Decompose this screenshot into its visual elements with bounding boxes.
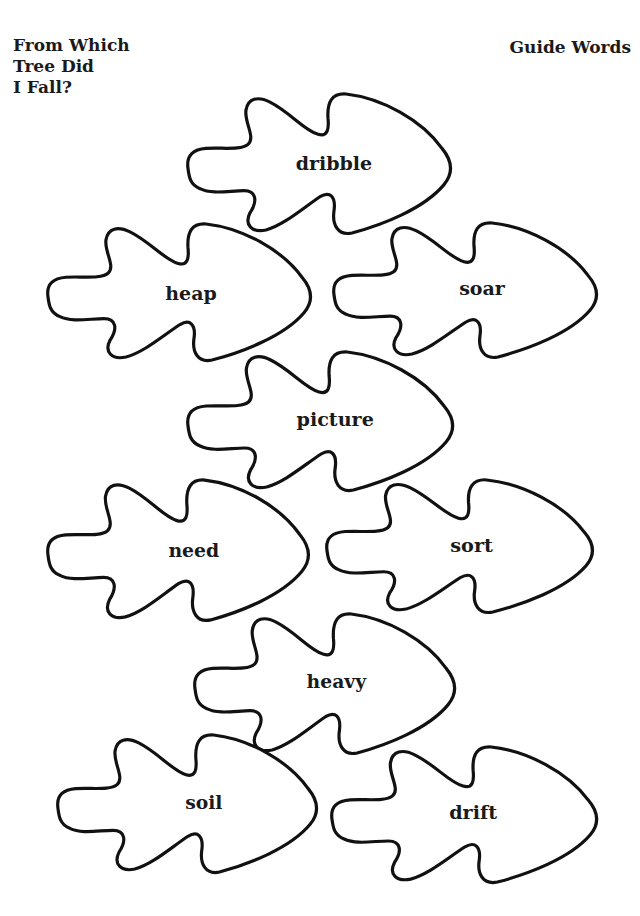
leaf-word: heap: [165, 282, 216, 304]
leaf-dribble: dribble: [188, 94, 451, 234]
leaf-word: sort: [450, 534, 493, 555]
leaf-word: soil: [185, 791, 222, 813]
leaf-word: dribble: [296, 151, 372, 173]
leaf-soar: soar: [334, 223, 597, 358]
leaf-sort: sort: [327, 480, 593, 613]
leaf-word: drift: [449, 802, 497, 824]
leaf-word: heavy: [307, 669, 368, 691]
leaf-word: need: [168, 539, 219, 561]
leaf-picture: picture: [188, 352, 453, 491]
leaf-canvas: dribble heap soar picture need sort heav…: [0, 0, 640, 916]
leaf-word: picture: [297, 408, 374, 430]
leaf-drift: drift: [332, 747, 597, 883]
leaf-soil: soil: [58, 735, 317, 873]
leaf-heap: heap: [48, 224, 311, 361]
leaf-need: need: [48, 480, 309, 621]
leaf-word: soar: [459, 277, 506, 299]
leaf-heavy: heavy: [195, 614, 455, 754]
